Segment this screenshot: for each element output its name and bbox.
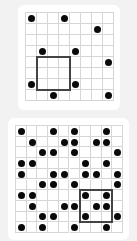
grid-cell[interactable]: [102, 169, 113, 180]
grid-cell[interactable]: [27, 126, 38, 137]
grid-cell[interactable]: [37, 169, 48, 180]
grid-cell[interactable]: [70, 158, 81, 169]
dot-icon: [18, 224, 25, 231]
grid-cell[interactable]: [48, 137, 59, 148]
dot-icon: [114, 171, 121, 178]
grid-cell: [92, 35, 103, 46]
grid-cell[interactable]: [27, 169, 38, 180]
main-grid[interactable]: [15, 125, 123, 233]
grid-cell[interactable]: [16, 201, 27, 212]
dot-icon: [28, 15, 35, 22]
grid-cell[interactable]: [59, 180, 70, 191]
grid-cell: [48, 13, 59, 24]
grid-cell: [59, 24, 70, 35]
grid-cell[interactable]: [59, 147, 70, 158]
grid-cell[interactable]: [16, 212, 27, 223]
grid-cell[interactable]: [112, 222, 123, 233]
grid-cell[interactable]: [37, 137, 48, 148]
grid-cell: [103, 13, 114, 24]
grid-cell[interactable]: [27, 212, 38, 223]
grid-cell: [92, 79, 103, 90]
grid-cell[interactable]: [70, 169, 81, 180]
grid-cell: [48, 35, 59, 46]
grid-cell: [70, 68, 81, 79]
grid-cell[interactable]: [112, 190, 123, 201]
dot-icon: [39, 48, 46, 55]
dot-icon: [29, 139, 36, 146]
grid-cell[interactable]: [48, 222, 59, 233]
grid-cell[interactable]: [112, 137, 123, 148]
grid-cell[interactable]: [80, 147, 91, 158]
dot-icon: [61, 139, 68, 146]
grid-cell: [70, 13, 81, 24]
grid-cell[interactable]: [102, 147, 113, 158]
dot-icon: [93, 139, 100, 146]
dot-icon: [82, 160, 89, 167]
dot-icon: [105, 59, 112, 66]
grid-cell[interactable]: [37, 201, 48, 212]
grid-cell[interactable]: [37, 126, 48, 137]
grid-cell[interactable]: [112, 126, 123, 137]
grid-cell[interactable]: [37, 158, 48, 169]
grid-cell: [92, 90, 103, 101]
grid-cell[interactable]: [16, 137, 27, 148]
dot-icon: [61, 171, 68, 178]
grid-cell: [37, 13, 48, 24]
grid-cell[interactable]: [59, 158, 70, 169]
dot-icon: [103, 139, 110, 146]
dot-icon: [28, 81, 35, 88]
grid-cell[interactable]: [91, 222, 102, 233]
grid-cell[interactable]: [80, 126, 91, 137]
grid-cell: [81, 79, 92, 90]
grid-cell[interactable]: [80, 222, 91, 233]
dot-icon: [105, 92, 112, 99]
grid-cell[interactable]: [16, 147, 27, 158]
grid-cell[interactable]: [59, 126, 70, 137]
grid-cell[interactable]: [27, 222, 38, 233]
grid-cell[interactable]: [59, 222, 70, 233]
grid-cell[interactable]: [91, 147, 102, 158]
dot-icon: [71, 139, 78, 146]
grid-cell: [92, 46, 103, 57]
grid-cell[interactable]: [91, 126, 102, 137]
grid-cell[interactable]: [27, 180, 38, 191]
dot-icon: [18, 192, 25, 199]
grid-cell: [48, 24, 59, 35]
grid-cell[interactable]: [80, 137, 91, 148]
grid-cell: [81, 35, 92, 46]
grid-cell: [81, 13, 92, 24]
grid-cell: [92, 13, 103, 24]
grid-cell: [103, 35, 114, 46]
highlight-box[interactable]: [79, 189, 113, 223]
grid-cell: [81, 68, 92, 79]
grid-cell: [26, 90, 37, 101]
grid-cell: [59, 35, 70, 46]
grid-cell: [92, 57, 103, 68]
dot-icon: [72, 81, 79, 88]
grid-cell: [37, 35, 48, 46]
grid-cell: [26, 24, 37, 35]
grid-cell[interactable]: [59, 212, 70, 223]
grid-cell: [70, 35, 81, 46]
grid-cell: [70, 57, 81, 68]
grid-cell: [103, 79, 114, 90]
grid-cell: [103, 24, 114, 35]
grid-cell[interactable]: [48, 158, 59, 169]
dot-icon: [18, 160, 25, 167]
grid-cell: [92, 68, 103, 79]
grid-cell[interactable]: [48, 190, 59, 201]
grid-cell[interactable]: [112, 201, 123, 212]
dot-icon: [61, 15, 68, 22]
dot-icon: [29, 160, 36, 167]
grid-cell[interactable]: [16, 180, 27, 191]
grid-cell[interactable]: [37, 190, 48, 201]
grid-cell[interactable]: [91, 158, 102, 169]
grid-cell[interactable]: [112, 158, 123, 169]
example-grid: [25, 12, 114, 101]
grid-cell[interactable]: [48, 201, 59, 212]
grid-cell[interactable]: [59, 190, 70, 201]
grid-cell: [103, 68, 114, 79]
grid-cell: [37, 24, 48, 35]
grid-cell: [37, 90, 48, 101]
grid-cell[interactable]: [27, 147, 38, 158]
